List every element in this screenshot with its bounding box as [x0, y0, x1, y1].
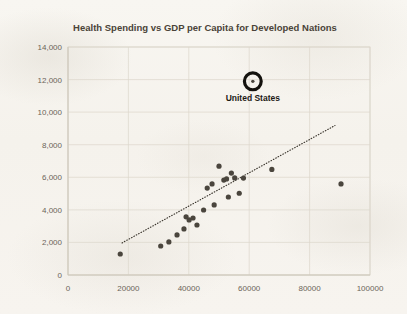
data-point	[237, 191, 242, 196]
highlighted-point-group: United States	[226, 73, 281, 103]
y-tick-label: 6,000	[42, 173, 63, 182]
data-point	[181, 226, 186, 231]
data-point	[209, 181, 214, 186]
data-point	[241, 176, 246, 181]
x-tick-label: 60000	[238, 284, 261, 293]
data-point	[201, 207, 206, 212]
chart-svg: Health Spending vs GDP per Capita for De…	[0, 0, 407, 314]
data-point	[229, 170, 234, 175]
scatter-chart-figure: Health Spending vs GDP per Capita for De…	[0, 0, 407, 314]
y-tick-label: 14,000	[38, 43, 63, 52]
y-tick-label: 0	[58, 271, 63, 280]
trendline	[122, 126, 335, 243]
data-point	[190, 215, 195, 220]
y-tick-label: 8,000	[42, 141, 63, 150]
x-axis-tick-labels: 0 20000 40000 60000 80000 100000	[66, 284, 384, 293]
y-axis-tick-labels: 14,000 12,000 10,000 8,000 6,000 4,000 2…	[38, 43, 63, 280]
x-tick-label: 20000	[117, 284, 140, 293]
data-point	[118, 251, 123, 256]
data-point	[194, 222, 199, 227]
x-tick-label: 80000	[298, 284, 321, 293]
plot-area-frame	[68, 47, 370, 275]
data-point	[166, 239, 171, 244]
data-point	[269, 167, 274, 172]
horizontal-gridlines	[68, 47, 370, 275]
x-tick-label: 100000	[357, 284, 384, 293]
data-point	[224, 176, 229, 181]
y-tick-label: 10,000	[38, 108, 63, 117]
data-point	[232, 175, 237, 180]
x-tick-label: 0	[66, 284, 71, 293]
vertical-gridlines	[68, 47, 370, 275]
data-point	[174, 232, 179, 237]
x-tick-label: 40000	[178, 284, 201, 293]
chart-title: Health Spending vs GDP per Capita for De…	[73, 22, 337, 33]
y-tick-label: 4,000	[42, 206, 63, 215]
data-point	[226, 194, 231, 199]
united-states-annotation-label: United States	[226, 93, 281, 103]
data-point	[338, 181, 343, 186]
data-point	[212, 202, 217, 207]
y-tick-label: 2,000	[42, 238, 63, 247]
data-point	[205, 185, 210, 190]
united-states-data-point	[251, 80, 254, 83]
data-point	[158, 243, 163, 248]
y-tick-label: 12,000	[38, 76, 63, 85]
data-point	[216, 164, 221, 169]
